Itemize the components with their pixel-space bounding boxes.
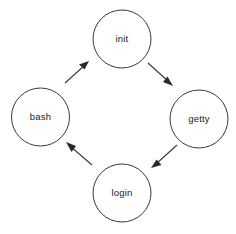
edge-getty-to-login	[151, 145, 177, 168]
edge-bash-to-init	[65, 61, 89, 83]
node-login[interactable]: login	[93, 164, 151, 222]
node-login-label: login	[111, 187, 132, 198]
edge-init-to-getty	[148, 63, 173, 86]
node-init[interactable]: init	[93, 10, 151, 68]
node-bash[interactable]: bash	[12, 88, 70, 146]
node-getty[interactable]: getty	[170, 90, 228, 148]
edge-bash-to-init-line	[65, 65, 85, 83]
state-cycle-diagram: init getty login bash	[0, 0, 236, 234]
diagram-canvas: init getty login bash	[0, 0, 236, 234]
node-bash-label: bash	[30, 111, 51, 122]
edge-login-to-bash	[66, 142, 92, 165]
node-getty-label: getty	[188, 113, 210, 124]
edge-getty-to-login-line	[156, 145, 177, 164]
node-init-label: init	[116, 33, 129, 44]
edge-bash-to-init-arrowhead	[79, 61, 89, 70]
